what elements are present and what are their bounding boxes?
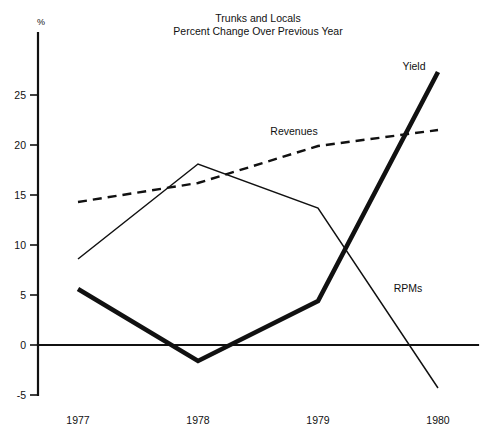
chart-subtitle: Percent Change Over Previous Year bbox=[173, 25, 343, 37]
x-tick-label-1978: 1978 bbox=[186, 414, 210, 426]
x-tick-label-1980: 1980 bbox=[426, 414, 450, 426]
y-tick-label-15: 15 bbox=[14, 189, 26, 201]
series-label-revenues: Revenues bbox=[270, 125, 317, 137]
series-label-yield: Yield bbox=[403, 60, 426, 72]
y-tick-label-10: 10 bbox=[14, 239, 26, 251]
y-tick-label-minus5: -5 bbox=[17, 389, 26, 401]
series-line-revenues bbox=[78, 130, 438, 202]
x-tick-label-1977: 1977 bbox=[66, 414, 90, 426]
series-line-rpms bbox=[78, 164, 438, 388]
chart-container: 25 20 15 10 5 0 -5 % Trunks and Locals P… bbox=[0, 0, 488, 442]
line-chart: 25 20 15 10 5 0 -5 % Trunks and Locals P… bbox=[0, 0, 488, 442]
y-tick-label-0: 0 bbox=[20, 339, 26, 351]
y-tick-marks bbox=[30, 95, 38, 395]
y-tick-label-20: 20 bbox=[14, 139, 26, 151]
series-label-rpms: RPMs bbox=[394, 282, 423, 294]
y-axis-unit-label: % bbox=[37, 17, 45, 27]
y-tick-label-5: 5 bbox=[20, 289, 26, 301]
y-tick-label-25: 25 bbox=[14, 89, 26, 101]
x-tick-label-1979: 1979 bbox=[306, 414, 330, 426]
chart-title: Trunks and Locals bbox=[215, 12, 300, 24]
